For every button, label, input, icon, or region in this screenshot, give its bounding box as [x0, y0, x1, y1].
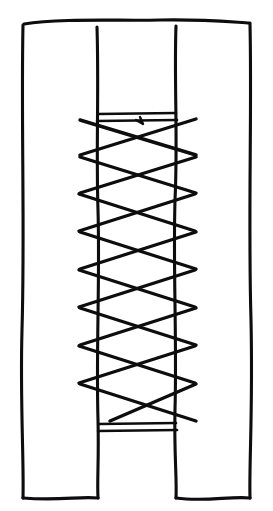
figure-root	[0, 0, 273, 511]
bottom-band-upper	[99, 423, 176, 424]
left-panel-outer-edge	[21, 25, 23, 498]
top-band-upper	[98, 113, 176, 114]
laced-panel-drawing	[0, 0, 273, 511]
right-panel-bottom-edge	[176, 498, 250, 500]
left-panel-bottom-edge	[23, 498, 98, 499]
canvas-background	[0, 0, 273, 511]
right-panel-outer-edge	[250, 24, 252, 498]
bottom-band-lower	[98, 430, 177, 431]
